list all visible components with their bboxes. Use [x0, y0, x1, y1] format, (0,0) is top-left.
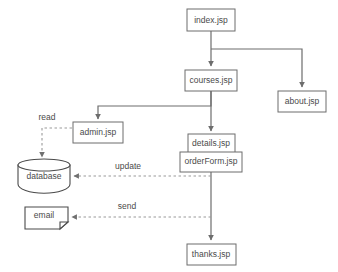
- node-admin-jsp[interactable]: admin.jsp: [73, 122, 123, 143]
- node-courses-jsp[interactable]: courses.jsp: [185, 70, 237, 91]
- node-orderform-jsp[interactable]: orderForm.jsp: [180, 152, 242, 172]
- node-label-courses-jsp: courses.jsp: [190, 75, 233, 85]
- node-index-jsp[interactable]: index.jsp: [187, 9, 235, 31]
- node-label-index-jsp: index.jsp: [194, 15, 228, 25]
- node-label-orderform-jsp: orderForm.jsp: [185, 156, 238, 166]
- edge-admin-to-database: read: [38, 112, 77, 157]
- flow-diagram: read update send index.jsp courses.jsp a…: [0, 0, 338, 272]
- edge-orderform-to-email: send: [72, 201, 211, 217]
- edge-label-update: update: [115, 161, 141, 171]
- edge-label-read: read: [38, 112, 55, 122]
- node-about-jsp[interactable]: about.jsp: [278, 91, 326, 112]
- node-thanks-jsp[interactable]: thanks.jsp: [187, 244, 236, 265]
- node-email[interactable]: email: [25, 207, 68, 229]
- node-label-thanks-jsp: thanks.jsp: [192, 249, 231, 259]
- node-details-jsp[interactable]: details.jsp: [188, 134, 235, 154]
- edge-label-send: send: [118, 201, 137, 211]
- node-label-database: database: [27, 171, 62, 181]
- diagram-canvas: read update send index.jsp courses.jsp a…: [0, 0, 338, 272]
- node-database[interactable]: database: [18, 159, 70, 193]
- node-label-details-jsp: details.jsp: [192, 138, 230, 148]
- node-label-email: email: [34, 210, 54, 220]
- node-label-admin-jsp: admin.jsp: [80, 127, 117, 137]
- node-label-about-jsp: about.jsp: [285, 96, 320, 106]
